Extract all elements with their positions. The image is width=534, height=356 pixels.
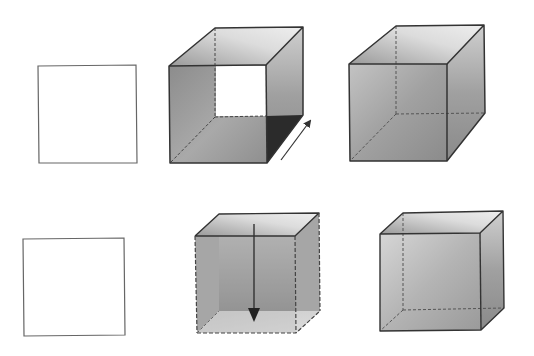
cube-construction-diagram <box>0 0 534 356</box>
bottom-sweep-cube <box>195 213 320 333</box>
top-completed-cube <box>349 25 485 161</box>
bottom-completed-cube <box>380 211 504 331</box>
top-extrusion-cube <box>169 27 303 163</box>
top-square <box>38 65 137 163</box>
bottom-square <box>23 238 125 336</box>
